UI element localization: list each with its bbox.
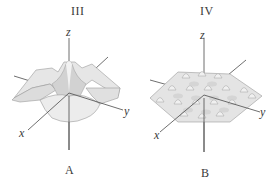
panel-right: IV z y x B (138, 0, 276, 182)
x-axis-label: x (19, 127, 24, 139)
y-axis-label: y (260, 106, 265, 118)
z-axis-label: z (66, 26, 71, 38)
panel-roman-label: III (71, 5, 85, 17)
panel-caption: B (201, 167, 209, 179)
panel-left: III z y x A (0, 0, 138, 182)
surface-plot-right (138, 0, 276, 182)
z-axis-label: z (200, 29, 205, 41)
x-axis-label: x (154, 129, 159, 141)
y-axis-label: y (124, 105, 129, 117)
panel-roman-label: IV (200, 5, 214, 17)
panel-caption: A (65, 164, 74, 176)
